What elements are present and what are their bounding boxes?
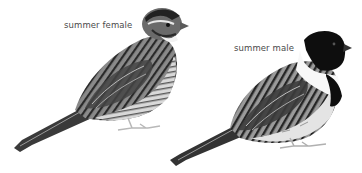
summer-female-bird-illustration [0, 0, 362, 173]
label-summer-female: summer female [64, 20, 132, 30]
bird-illustration-plate: summer female summer male [0, 0, 362, 173]
label-summer-male: summer male [234, 43, 294, 53]
